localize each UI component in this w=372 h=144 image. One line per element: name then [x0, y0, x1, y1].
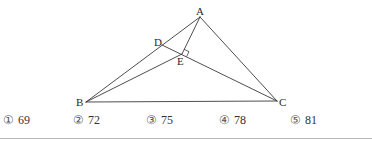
choice-5[interactable]: ⑤81	[290, 113, 317, 128]
choice-value: 81	[305, 113, 317, 127]
segment-ac	[200, 17, 277, 101]
triangle-figure: A B C D E	[0, 0, 372, 120]
segment-bc	[86, 101, 277, 102]
choice-number: ③	[146, 113, 157, 127]
answer-choices: ①69 ②72 ③75 ④78 ⑤81	[0, 113, 372, 129]
choice-number: ⑤	[290, 113, 301, 127]
choice-number: ④	[219, 113, 230, 127]
choice-1[interactable]: ①69	[3, 113, 30, 128]
choice-number: ②	[73, 113, 84, 127]
label-a: A	[196, 5, 204, 17]
label-b: B	[76, 96, 83, 108]
choice-3[interactable]: ③75	[146, 113, 173, 128]
choice-2[interactable]: ②72	[73, 113, 100, 128]
label-d: D	[154, 36, 162, 48]
choice-4[interactable]: ④78	[219, 113, 246, 128]
choice-value: 72	[88, 113, 100, 127]
segment-dc	[162, 45, 277, 101]
segment-ae	[182, 17, 200, 54]
choice-value: 78	[234, 113, 246, 127]
right-angle-mark	[185, 50, 190, 57]
bottom-divider	[0, 138, 372, 139]
choice-number: ①	[3, 113, 14, 127]
label-c: C	[279, 96, 286, 108]
label-e: E	[177, 55, 184, 67]
segment-be	[86, 54, 182, 102]
choice-value: 75	[161, 113, 173, 127]
choice-value: 69	[18, 113, 30, 127]
